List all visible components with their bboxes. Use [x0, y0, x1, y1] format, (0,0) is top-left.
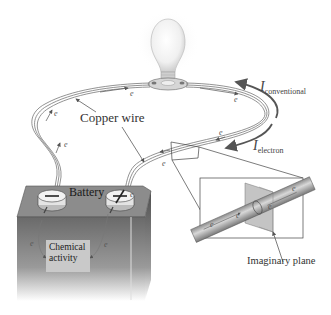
chemical-activity-label: Chemical activity [46, 240, 90, 272]
chemical-activity-line1: Chemical [49, 242, 87, 253]
electron-symbol: e [268, 203, 272, 211]
copper-wire-label: Copper wire [80, 111, 145, 124]
electron-symbol: e [104, 241, 108, 249]
bulb-socket [148, 78, 188, 90]
negative-terminal [38, 190, 66, 213]
circuit-diagram: Copper wire Battery Chemical activity Im… [0, 0, 331, 315]
electron-symbol: e [54, 110, 58, 118]
electron-symbol: e [210, 221, 214, 229]
electron-symbol: e [130, 191, 134, 199]
electron-symbol: e [292, 185, 296, 193]
copper-wire-pointer-right [122, 127, 144, 162]
i-electron-subscript: electron [258, 146, 284, 155]
i-conventional-subscript: conventional [265, 87, 306, 96]
i-electron-label: Ielectron [253, 139, 283, 155]
electron-symbol: e [130, 90, 134, 98]
i-conventional-label: Iconventional [260, 80, 306, 96]
electron-symbol: e [234, 96, 238, 104]
light-bulb [136, 10, 200, 80]
chemical-activity-line2: activity [49, 253, 87, 264]
electron-symbol: e [236, 212, 240, 220]
battery-label: Battery [69, 186, 104, 198]
electron-symbol: e [162, 160, 166, 168]
electron-symbol: e [219, 129, 223, 137]
electron-symbol: e [30, 240, 34, 248]
imaginary-plane-label: Imaginary plane [247, 256, 316, 267]
electron-symbol: e [64, 141, 68, 149]
